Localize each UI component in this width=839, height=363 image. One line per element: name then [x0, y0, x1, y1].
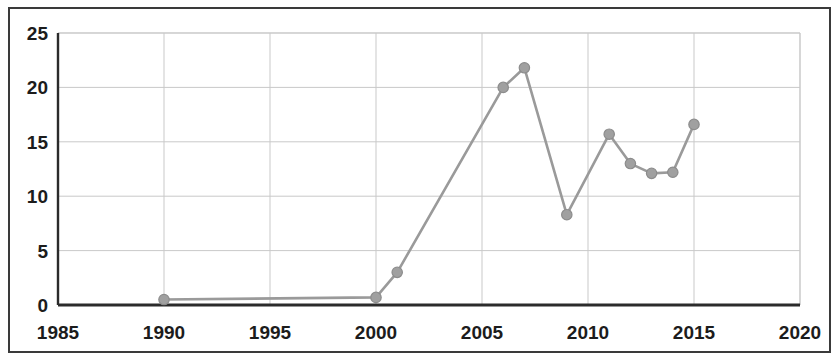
data-point-marker — [689, 119, 699, 129]
data-point-marker — [646, 168, 656, 178]
x-axis-tick-label: 2020 — [760, 323, 839, 342]
y-axis-tick-label: 25 — [10, 24, 48, 43]
y-axis-tick-label: 15 — [10, 133, 48, 152]
data-point-marker — [371, 292, 381, 302]
data-point-marker — [562, 210, 572, 220]
y-axis-tick-label: 0 — [10, 296, 48, 315]
x-axis-tick-label: 2000 — [336, 323, 416, 342]
series-line — [164, 68, 694, 300]
y-axis-tick-label: 20 — [10, 78, 48, 97]
y-axis-tick-label: 5 — [10, 242, 48, 261]
data-point-marker — [159, 294, 169, 304]
x-axis-tick-label: 2015 — [654, 323, 734, 342]
series-line-path — [164, 68, 694, 300]
vertical-gridlines — [164, 33, 800, 305]
axis-lines — [58, 33, 800, 305]
x-axis-tick-label: 2010 — [548, 323, 628, 342]
data-point-marker — [625, 158, 635, 168]
data-point-marker — [519, 63, 529, 73]
data-point-marker — [604, 129, 614, 139]
series-markers — [159, 63, 699, 305]
x-axis-tick-label: 1985 — [18, 323, 98, 342]
data-point-marker — [392, 267, 402, 277]
x-axis-tick-label: 1990 — [124, 323, 204, 342]
data-point-marker — [668, 167, 678, 177]
line-chart — [0, 0, 839, 363]
y-axis-tick-label: 10 — [10, 187, 48, 206]
x-axis-tick-label: 1995 — [230, 323, 310, 342]
data-point-marker — [498, 82, 508, 92]
x-axis-tick-label: 2005 — [442, 323, 522, 342]
